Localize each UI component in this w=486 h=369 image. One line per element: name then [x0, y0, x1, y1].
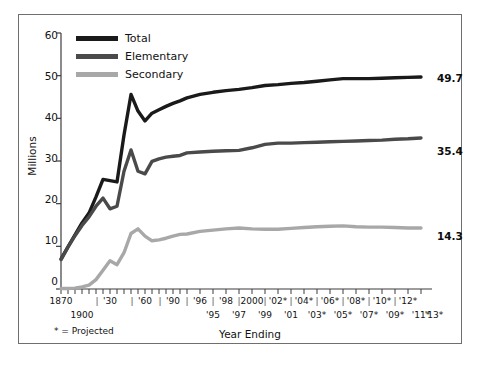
series-line-secondary [61, 226, 421, 289]
x-tick-label-lower-6: '05* [334, 310, 352, 320]
x-label-separator-2: | [130, 296, 133, 306]
y-tick-marks [56, 33, 61, 289]
x-label-separator-4: | [185, 296, 188, 306]
x-tick-label-lower-8: '09* [386, 310, 404, 320]
x-tick-label-lower-3: '99 [258, 310, 272, 320]
x-tick-label-upper-0: 1870 [50, 296, 73, 306]
x-tick-label-upper-11: '10* [373, 296, 391, 306]
x-tick-label-lower-1: '95 [206, 310, 220, 320]
x-tick-label-upper-4: '96 [193, 296, 207, 306]
x-tick-label-upper-5: '98 [219, 296, 233, 306]
x-tick-label-lower-4: '01 [284, 310, 298, 320]
x-label-separator-1: | [95, 296, 98, 306]
x-label-separator-5: | [211, 296, 214, 306]
x-tick-label-upper-3: '90 [166, 296, 180, 306]
series-line-total [61, 77, 421, 259]
chart-figure: 60 50 40 30 20 10 0 Millions Year Ending… [0, 0, 486, 369]
x-label-separator-10: | [341, 296, 344, 306]
x-tick-label-upper-7: '02* [269, 296, 287, 306]
x-tick-label-lower-5: '03* [308, 310, 326, 320]
x-tick-label-upper-8: '04* [295, 296, 313, 306]
x-tick-label-upper-9: '06* [321, 296, 339, 306]
x-label-separator-6: | [237, 296, 240, 306]
x-label-separator-9: | [315, 296, 318, 306]
series-lines [61, 77, 421, 289]
x-tick-label-upper-1: '30 [103, 296, 117, 306]
x-tick-label-lower-0: 1900 [71, 310, 94, 320]
series-line-elementary [61, 138, 421, 260]
x-label-separator-3: | [158, 296, 161, 306]
x-tick-label-lower-2: '97 [232, 310, 246, 320]
x-tick-label-lower-10: '13* [425, 310, 443, 320]
x-label-separator-11: | [367, 296, 370, 306]
x-tick-label-upper-6: 2000 [241, 296, 264, 306]
x-label-separator-12: | [393, 296, 396, 306]
x-tick-label-lower-7: '07* [360, 310, 378, 320]
x-label-separator-7: | [263, 296, 266, 306]
x-tick-label-upper-10: '08* [347, 296, 365, 306]
x-tick-label-upper-2: '60 [138, 296, 152, 306]
x-tick-marks [61, 289, 421, 294]
x-label-separator-8: | [289, 296, 292, 306]
axis-lines [61, 33, 432, 289]
x-tick-label-upper-12: '12* [399, 296, 417, 306]
